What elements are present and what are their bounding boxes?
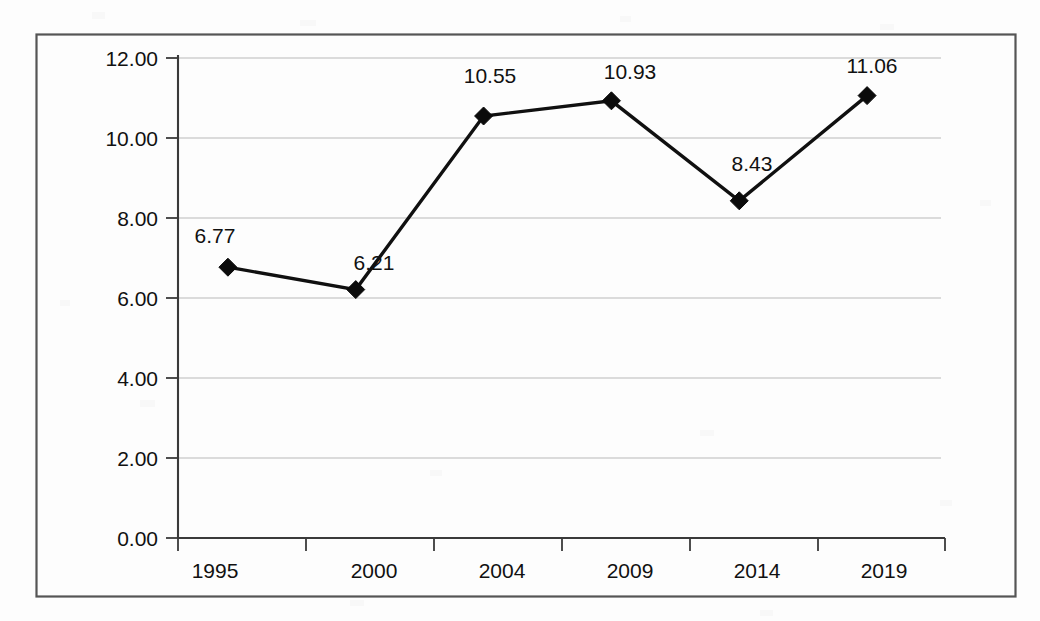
- x-axis-label-2014: 2014: [734, 559, 781, 582]
- x-axis-label-2019: 2019: [861, 559, 908, 582]
- data-label-2014: 8.43: [732, 152, 773, 175]
- data-label-2009: 10.93: [604, 60, 657, 83]
- data-label-1995: 6.77: [195, 224, 236, 247]
- data-label-2019: 11.06: [847, 54, 898, 77]
- x-axis-label-2009: 2009: [607, 559, 654, 582]
- data-label-2000: 6.21: [354, 251, 395, 274]
- data-label-2004: 10.55: [464, 64, 517, 87]
- line-chart: 12.00 10.00 8.00 6.00 4.00 2.00 0.00 199…: [0, 0, 1040, 621]
- y-axis-label-4: 4.00: [117, 367, 158, 390]
- chart-container: 12.00 10.00 8.00 6.00 4.00 2.00 0.00 199…: [0, 0, 1040, 621]
- y-axis-label-2: 2.00: [117, 447, 158, 470]
- y-axis-label-10: 10.00: [105, 127, 158, 150]
- y-axis-label-8: 8.00: [117, 207, 158, 230]
- y-axis-label-12: 12.00: [105, 47, 158, 70]
- x-axis-label-2000: 2000: [351, 559, 398, 582]
- x-axis-label-2004: 2004: [479, 559, 526, 582]
- x-axis-label-1995: 1995: [192, 559, 239, 582]
- y-axis-label-6: 6.00: [117, 287, 158, 310]
- y-axis-label-0: 0.00: [117, 527, 158, 550]
